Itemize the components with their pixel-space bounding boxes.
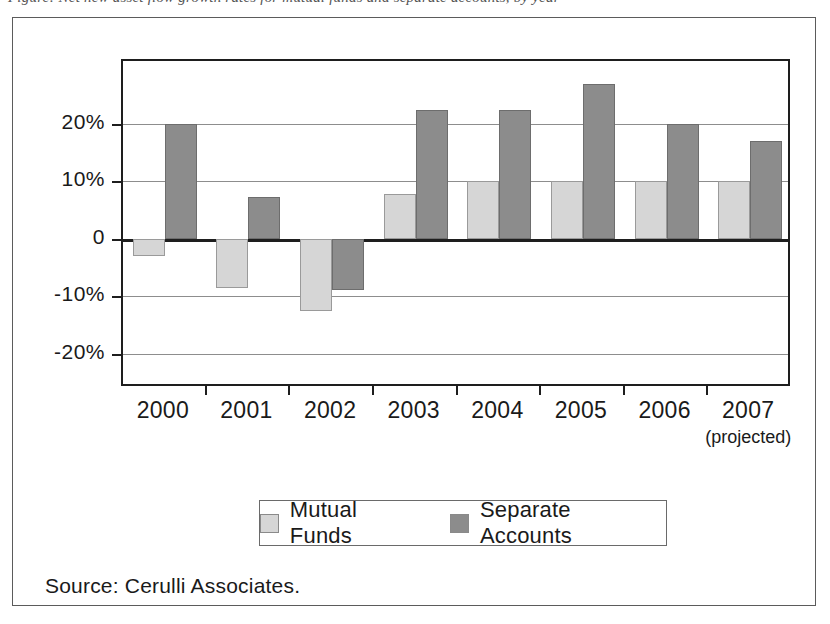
y-axis-tick xyxy=(112,354,123,356)
bar-mutual-funds-2005 xyxy=(551,181,583,238)
y-axis-label: 0 xyxy=(93,225,105,249)
y-axis: 20%10%0-10%-20% xyxy=(13,59,105,386)
x-axis-label-2006: 2006 xyxy=(638,397,690,424)
bar-separate-accounts-2003 xyxy=(416,110,448,239)
legend-swatch-separate-accounts xyxy=(450,514,469,533)
gridline xyxy=(123,354,788,355)
x-axis-tick xyxy=(456,386,458,395)
y-axis-label: 10% xyxy=(61,167,105,191)
x-axis-label-2003: 2003 xyxy=(388,397,440,424)
bar-separate-accounts-2005 xyxy=(583,84,615,239)
x-axis: 20002001200220032004200520062007(project… xyxy=(121,386,790,456)
bar-separate-accounts-2007 xyxy=(750,141,782,239)
legend-item-separate-accounts: Separate Accounts xyxy=(450,497,666,549)
y-axis-tick xyxy=(112,181,123,183)
bar-separate-accounts-2004 xyxy=(499,110,531,239)
cut-off-caption-text: Figure: Net new asset flow growth rates … xyxy=(8,0,560,6)
x-axis-tick xyxy=(288,386,290,395)
legend-swatch-mutual-funds xyxy=(260,514,279,533)
bar-mutual-funds-2006 xyxy=(635,181,667,238)
bar-mutual-funds-2007 xyxy=(718,181,750,238)
legend-item-mutual-funds: Mutual Funds xyxy=(260,497,424,549)
legend-label: Separate Accounts xyxy=(480,497,666,549)
x-axis-tick xyxy=(539,386,541,395)
y-axis-tick xyxy=(112,239,123,241)
legend-label: Mutual Funds xyxy=(290,497,424,549)
x-axis-tick xyxy=(623,386,625,395)
bar-mutual-funds-2004 xyxy=(467,181,499,238)
x-axis-label-2004: 2004 xyxy=(471,397,523,424)
y-axis-label: -10% xyxy=(54,282,105,306)
source-note: Source: Cerulli Associates. xyxy=(45,574,300,598)
y-axis-label: -20% xyxy=(54,340,105,364)
bar-separate-accounts-2000 xyxy=(165,124,197,239)
x-axis-label-2005: 2005 xyxy=(555,397,607,424)
bar-separate-accounts-2006 xyxy=(667,124,699,239)
x-axis-label-2001: 2001 xyxy=(220,397,272,424)
plot-area xyxy=(121,59,790,386)
x-axis-tick xyxy=(706,386,708,395)
bar-separate-accounts-2002 xyxy=(332,239,364,291)
x-axis-label-2007: 2007 xyxy=(722,397,774,424)
bar-mutual-funds-2002 xyxy=(300,239,332,311)
x-axis-label-2002: 2002 xyxy=(304,397,356,424)
y-axis-tick xyxy=(112,296,123,298)
chart-legend: Mutual FundsSeparate Accounts xyxy=(259,500,667,546)
x-axis-label-2000: 2000 xyxy=(137,397,189,424)
bar-separate-accounts-2001 xyxy=(248,197,280,239)
y-axis-tick xyxy=(112,124,123,126)
bar-mutual-funds-2001 xyxy=(216,239,248,288)
x-axis-tick xyxy=(372,386,374,395)
cut-off-caption-strip: Figure: Net new asset flow growth rates … xyxy=(0,0,830,11)
x-axis-tick xyxy=(205,386,207,395)
bar-mutual-funds-2000 xyxy=(133,239,165,256)
gridline xyxy=(123,296,788,297)
bar-mutual-funds-2003 xyxy=(384,194,416,239)
figure-outer-box: 20%10%0-10%-20% 200020012002200320042005… xyxy=(12,17,816,606)
x-axis-sublabel-projected: (projected) xyxy=(705,427,791,448)
y-axis-label: 20% xyxy=(61,110,105,134)
